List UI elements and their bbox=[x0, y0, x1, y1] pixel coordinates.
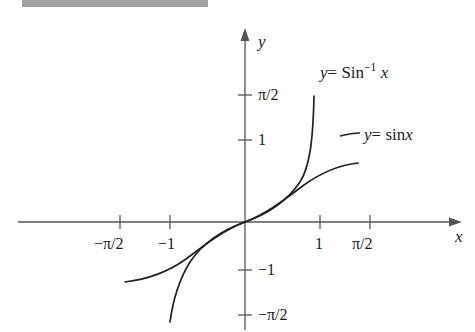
plot-area bbox=[0, 0, 475, 332]
x-tick-label-neg-pi-over-2: −π/2 bbox=[94, 236, 124, 252]
arcsine-label-arg: x bbox=[381, 63, 389, 82]
sine-label-leader bbox=[340, 133, 360, 136]
arcsine-label-y: y bbox=[320, 63, 328, 82]
x-axis-label: x bbox=[455, 228, 463, 245]
x-tick-label-neg-1: −1 bbox=[158, 236, 175, 252]
y-tick-label-neg-1: −1 bbox=[258, 262, 275, 278]
sine-curve-label: y= sinx bbox=[364, 126, 413, 143]
arcsine-curve bbox=[170, 96, 314, 322]
y-tick-label-neg-pi-over-2: −π/2 bbox=[258, 307, 288, 323]
y-tick-label-pi-over-2: π/2 bbox=[258, 87, 279, 103]
sine-label-fn: sin bbox=[385, 125, 405, 144]
y-tick-label-1: 1 bbox=[258, 132, 266, 148]
sine-label-arg: x bbox=[405, 125, 413, 144]
y-axis-arrowhead bbox=[241, 28, 250, 41]
arcsine-curve-label: y= Sin−1 x bbox=[320, 62, 388, 81]
x-tick-label-pi-over-2: π/2 bbox=[352, 236, 373, 252]
arcsine-label-exponent: −1 bbox=[364, 61, 376, 74]
y-axis-label: y bbox=[258, 33, 266, 50]
x-tick-label-1: 1 bbox=[315, 236, 323, 252]
arcsine-label-equals: = bbox=[328, 63, 338, 82]
x-axis-arrowhead bbox=[449, 218, 462, 227]
sine-label-equals: = bbox=[372, 125, 382, 144]
figure-container: FIGURE 8.8 y x π/2 1 −1 −π/2 −π/2 −1 1 π… bbox=[0, 0, 475, 332]
sine-label-y: y bbox=[364, 125, 372, 144]
arcsine-label-fn: Sin bbox=[341, 63, 364, 82]
